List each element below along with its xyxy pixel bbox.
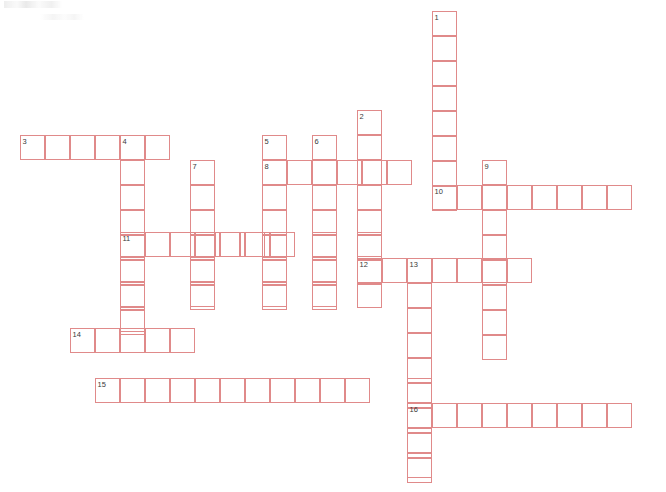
crossword-cell[interactable] [432, 111, 457, 136]
crossword-cell[interactable] [457, 258, 482, 283]
crossword-cell[interactable] [432, 185, 457, 210]
crossword-cell[interactable] [357, 283, 382, 308]
crossword-cell[interactable] [457, 403, 482, 428]
crossword-cell[interactable] [345, 378, 370, 403]
crossword-cell[interactable] [190, 232, 215, 257]
crossword-cell[interactable] [120, 232, 145, 257]
crossword-cell[interactable] [357, 258, 382, 283]
crossword-cell[interactable] [362, 160, 387, 185]
crossword-cell[interactable] [382, 258, 407, 283]
crossword-cell[interactable] [482, 335, 507, 360]
crossword-cell[interactable] [457, 185, 482, 210]
crossword-cell[interactable] [407, 378, 432, 403]
crossword-cell[interactable] [120, 282, 145, 307]
crossword-cell[interactable] [312, 282, 337, 307]
crossword-cell[interactable] [407, 403, 432, 428]
crossword-cell[interactable] [482, 403, 507, 428]
crossword-cell[interactable] [357, 110, 382, 135]
crossword-cell[interactable] [482, 258, 507, 283]
crossword-cell[interactable] [407, 258, 432, 283]
crossword-grid[interactable]: 12345678910111213141516 [0, 0, 666, 492]
crossword-cell[interactable] [507, 403, 532, 428]
crossword-cell[interactable] [312, 257, 337, 282]
crossword-cell[interactable] [607, 185, 632, 210]
crossword-cell[interactable] [262, 160, 287, 185]
crossword-cell[interactable] [270, 378, 295, 403]
crossword-cell[interactable] [607, 403, 632, 428]
crossword-cell[interactable] [482, 160, 507, 185]
crossword-cell[interactable] [507, 258, 532, 283]
crossword-cell[interactable] [70, 328, 95, 353]
crossword-cell[interactable] [220, 378, 245, 403]
crossword-cell[interactable] [532, 403, 557, 428]
crossword-cell[interactable] [407, 333, 432, 358]
crossword-cell[interactable] [190, 282, 215, 307]
crossword-cell[interactable] [95, 378, 120, 403]
crossword-cell[interactable] [357, 232, 382, 257]
crossword-cell[interactable] [582, 403, 607, 428]
crossword-cell[interactable] [407, 308, 432, 333]
crossword-cell[interactable] [120, 135, 145, 160]
crossword-cell[interactable] [312, 160, 337, 185]
crossword-cell[interactable] [407, 283, 432, 308]
crossword-cell[interactable] [432, 36, 457, 61]
crossword-cell[interactable] [295, 378, 320, 403]
crossword-cell[interactable] [482, 185, 507, 210]
crossword-cell[interactable] [312, 185, 337, 210]
crossword-cell[interactable] [432, 61, 457, 86]
crossword-cell[interactable] [482, 285, 507, 310]
crossword-cell[interactable] [95, 135, 120, 160]
crossword-cell[interactable] [190, 160, 215, 185]
crossword-cell[interactable] [170, 328, 195, 353]
crossword-cell[interactable] [387, 160, 412, 185]
crossword-cell[interactable] [432, 86, 457, 111]
crossword-cell[interactable] [482, 310, 507, 335]
crossword-cell[interactable] [120, 378, 145, 403]
crossword-cell[interactable] [215, 232, 240, 257]
crossword-cell[interactable] [120, 185, 145, 210]
crossword-cell[interactable] [262, 282, 287, 307]
crossword-cell[interactable] [120, 257, 145, 282]
crossword-cell[interactable] [262, 135, 287, 160]
crossword-cell[interactable] [557, 185, 582, 210]
crossword-cell[interactable] [320, 378, 345, 403]
crossword-cell[interactable] [145, 378, 170, 403]
crossword-cell[interactable] [262, 257, 287, 282]
crossword-cell[interactable] [432, 161, 457, 186]
crossword-cell[interactable] [145, 232, 170, 257]
crossword-cell[interactable] [262, 232, 287, 257]
crossword-cell[interactable] [120, 160, 145, 185]
crossword-cell[interactable] [357, 185, 382, 210]
crossword-cell[interactable] [190, 257, 215, 282]
crossword-cell[interactable] [507, 185, 532, 210]
crossword-cell[interactable] [170, 378, 195, 403]
crossword-cell[interactable] [120, 307, 145, 332]
crossword-cell[interactable] [312, 135, 337, 160]
crossword-cell[interactable] [20, 135, 45, 160]
crossword-cell[interactable] [357, 135, 382, 160]
crossword-cell[interactable] [70, 135, 95, 160]
crossword-cell[interactable] [262, 185, 287, 210]
crossword-cell[interactable] [482, 235, 507, 260]
crossword-cell[interactable] [312, 232, 337, 257]
crossword-cell[interactable] [482, 210, 507, 235]
crossword-cell[interactable] [432, 258, 457, 283]
crossword-cell[interactable] [95, 328, 120, 353]
crossword-cell[interactable] [557, 403, 582, 428]
crossword-cell[interactable] [190, 185, 215, 210]
crossword-cell[interactable] [407, 428, 432, 453]
crossword-cell[interactable] [45, 135, 70, 160]
crossword-cell[interactable] [432, 136, 457, 161]
crossword-cell[interactable] [532, 185, 557, 210]
crossword-cell[interactable] [245, 378, 270, 403]
crossword-cell[interactable] [195, 378, 220, 403]
crossword-cell[interactable] [287, 160, 312, 185]
crossword-cell[interactable] [337, 160, 362, 185]
crossword-cell[interactable] [407, 453, 432, 478]
crossword-cell[interactable] [145, 328, 170, 353]
crossword-cell[interactable] [432, 11, 457, 36]
crossword-cell[interactable] [145, 135, 170, 160]
crossword-cell[interactable] [432, 403, 457, 428]
crossword-cell[interactable] [240, 232, 265, 257]
crossword-cell[interactable] [582, 185, 607, 210]
